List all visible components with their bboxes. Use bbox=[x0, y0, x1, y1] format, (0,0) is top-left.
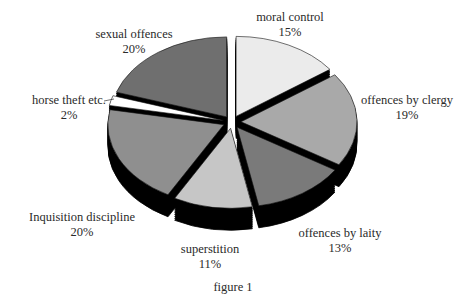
label-name: superstition bbox=[170, 242, 250, 257]
label-pct: 15% bbox=[238, 25, 342, 40]
label-pct: 13% bbox=[285, 241, 395, 256]
label-superstition: superstition 11% bbox=[170, 242, 250, 272]
label-sexual-offences: sexual offences 20% bbox=[84, 27, 184, 57]
label-pct: 11% bbox=[170, 257, 250, 272]
label-name: offences by clergy bbox=[348, 93, 466, 108]
label-offences-by-clergy: offences by clergy 19% bbox=[348, 93, 466, 123]
pie-3d bbox=[108, 36, 357, 230]
label-name: Inquisition discipline bbox=[22, 210, 142, 225]
label-pct: 20% bbox=[22, 225, 142, 240]
figure-caption: figure 1 bbox=[0, 280, 466, 295]
label-name: offences by laity bbox=[285, 226, 395, 241]
label-name: sexual offences bbox=[84, 27, 184, 42]
label-pct: 20% bbox=[84, 42, 184, 57]
label-moral-control: moral control 15% bbox=[238, 10, 342, 40]
label-name: horse theft etc. bbox=[22, 93, 116, 108]
label-offences-by-laity: offences by laity 13% bbox=[285, 226, 395, 256]
label-pct: 19% bbox=[348, 108, 466, 123]
label-inquisition-discipline: Inquisition discipline 20% bbox=[22, 210, 142, 240]
label-name: moral control bbox=[238, 10, 342, 25]
label-pct: 2% bbox=[22, 108, 116, 123]
label-horse-theft: horse theft etc. 2% bbox=[22, 93, 116, 123]
